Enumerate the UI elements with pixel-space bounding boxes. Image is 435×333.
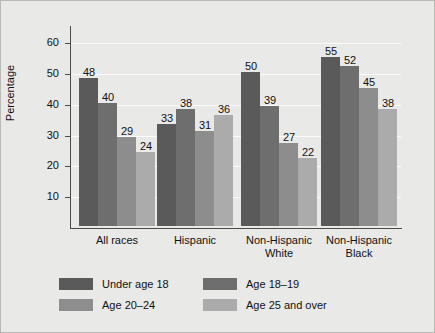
bar [378,109,397,226]
legend-label: Age 20–24 [102,299,155,311]
y-tick-label: 20 [25,159,59,171]
legend-item[interactable]: Age 18–19 [203,278,347,290]
bar-value-label: 22 [295,147,321,158]
x-axis-category-line: Non-Hispanic [304,234,414,247]
x-axis-category-label: Non-HispanicBlack [304,234,414,260]
legend-swatch [203,299,237,311]
legend-row: Age 20–24Age 25 and over [59,299,359,311]
bar-value-label: 39 [257,95,283,106]
y-tick-label: 60 [25,36,59,48]
legend-label: Age 25 and over [246,299,327,311]
y-tick [65,166,71,167]
y-tick [65,74,71,75]
bar [98,103,117,226]
legend-swatch [59,299,93,311]
bar [260,106,279,226]
x-axis-category-line: Black [304,247,414,260]
bar-value-label: 38 [375,98,401,109]
y-axis-line [70,26,71,229]
y-tick [65,43,71,44]
bar-value-label: 50 [238,61,264,72]
bar-value-label: 40 [95,92,121,103]
legend-item[interactable]: Under age 18 [59,278,203,290]
bar-value-label: 48 [76,67,102,78]
y-axis-title: Percentage [4,48,16,138]
bar-value-label: 27 [276,132,302,143]
bar-value-label: 24 [133,141,159,152]
bar [214,115,233,226]
bar-value-label: 52 [337,55,363,66]
bar [298,158,317,226]
legend: Under age 18Age 18–19Age 20–24Age 25 and… [59,278,359,320]
bar-value-label: 45 [356,77,382,88]
legend-item[interactable]: Age 25 and over [203,299,347,311]
x-axis-line [70,228,402,229]
y-tick-label: 10 [25,190,59,202]
bar-value-label: 36 [211,104,237,115]
legend-swatch [59,278,93,290]
legend-item[interactable]: Age 20–24 [59,299,203,311]
legend-row: Under age 18Age 18–19 [59,278,359,290]
bar [157,124,176,226]
y-tick [65,105,71,106]
legend-swatch [203,278,237,290]
gridline [71,43,401,44]
bar-value-label: 38 [173,98,199,109]
chart-figure: 102030405060 Percentage 4840292433383136… [0,0,435,333]
bar [136,152,155,226]
y-tick-label: 50 [25,67,59,79]
bar-value-label: 29 [114,126,140,137]
y-tick [65,197,71,198]
bar [340,66,359,226]
bar [321,57,340,226]
legend-label: Under age 18 [102,278,169,290]
y-tick [65,136,71,137]
bar [195,131,214,226]
y-tick-label: 30 [25,129,59,141]
legend-label: Age 18–19 [246,278,299,290]
y-tick-label: 40 [25,98,59,110]
